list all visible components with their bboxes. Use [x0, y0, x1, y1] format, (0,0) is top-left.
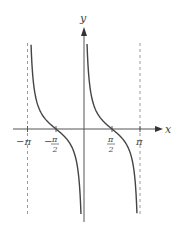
tick-label-neg-half-pi-den: 2	[52, 145, 58, 154]
x-axis-label: x	[165, 123, 172, 136]
x-axis-arrow-icon	[155, 126, 163, 132]
cotangent-graph: x y −π − π 2 π 2 π	[0, 0, 173, 237]
tick-label-neg-half-pi-num: π	[51, 135, 58, 144]
tick-label-pi: π	[135, 136, 143, 147]
tick-label-half-pi-num: π	[107, 135, 114, 144]
y-axis-arrow-icon	[81, 27, 87, 36]
y-axis-label: y	[79, 12, 87, 25]
tick-label-half-pi-den: 2	[108, 145, 114, 154]
tick-label-neg-pi: −π	[16, 136, 31, 147]
